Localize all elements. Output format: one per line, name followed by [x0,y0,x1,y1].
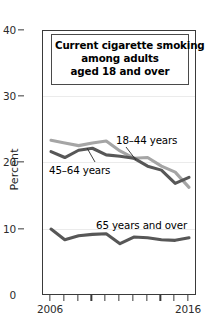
x-tick-mark-2006 [49,295,50,301]
x-tick-mark-2016 [187,295,188,301]
x-tick-mark-2007 [63,295,64,301]
x-tick-label-2006: 2006 [37,303,63,315]
x-tick-mark-2012 [132,295,133,301]
x-tick-mark-2015 [174,295,175,301]
x-tick-label-2016: 2016 [175,303,201,315]
chart-container: 40 30 20 10 0 Percent Current cigarette … [0,0,210,333]
x-axis: 2006 2016 [42,295,196,333]
y-axis-title: Percent [8,135,21,205]
y-tick-label-10: 10 [3,223,16,235]
y-tick-mark-10 [18,228,24,229]
y-tick-label-40: 40 [3,24,16,36]
line-series-65-over [51,229,189,244]
y-axis: 40 30 20 10 0 [0,0,42,333]
x-tick-mark-2008 [77,295,78,301]
series-label-45-64: 45–64 years [49,164,110,176]
plot-area: Current cigarette smoking among adults a… [42,30,196,295]
x-tick-mark-2009 [91,295,92,301]
y-tick-mark-30 [18,95,24,96]
x-tick-mark-2010 [105,295,106,301]
x-tick-mark-2014 [160,295,161,301]
y-tick-label-0: 0 [10,289,16,301]
x-tick-mark-2013 [146,295,147,301]
y-tick-mark-40 [18,29,24,30]
x-tick-mark-2011 [118,295,119,301]
series-label-18-44: 18–44 years [116,134,177,146]
y-tick-label-30: 30 [3,90,16,102]
series-label-65-over: 65 years and over [96,219,187,231]
